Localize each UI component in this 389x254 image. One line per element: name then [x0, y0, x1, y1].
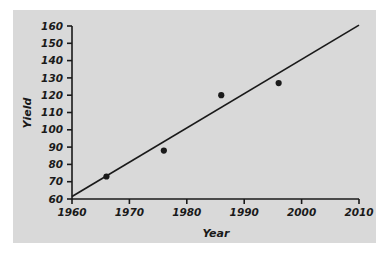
x-tick-label: 2000: [287, 206, 316, 218]
data-point-marker: [103, 173, 109, 179]
fitted-line: [72, 25, 359, 196]
axis-lines: [72, 26, 359, 199]
y-tick-label: 120: [41, 89, 63, 101]
x-tick-label: 1990: [230, 206, 259, 218]
x-tick-label: 1980: [172, 206, 201, 218]
y-tick-label: 160: [41, 20, 63, 32]
y-tick-label: 70: [48, 175, 63, 187]
data-point-marker: [276, 80, 282, 86]
y-tick-label: 90: [48, 141, 63, 153]
y-axis-title: Yield: [21, 97, 34, 128]
y-tick-label: 140: [41, 54, 63, 66]
data-point-marker: [218, 92, 224, 98]
scatter-plot: 60708090100110120130140150160 1960197019…: [0, 0, 389, 254]
chart-figure: 60708090100110120130140150160 1960197019…: [0, 0, 389, 254]
x-axis-title: Year: [203, 227, 230, 240]
trend-line: [72, 25, 359, 196]
y-tick-label: 110: [41, 106, 63, 118]
y-tick-label: 100: [41, 123, 63, 135]
y-tick-label: 60: [48, 193, 63, 205]
data-points: [103, 80, 281, 180]
y-tick-label: 80: [48, 158, 63, 170]
x-axis-ticks: 196019701980199020002010: [57, 199, 373, 218]
y-tick-label: 130: [41, 72, 63, 84]
x-tick-label: 1960: [57, 206, 86, 218]
y-tick-label: 150: [41, 37, 63, 49]
x-tick-label: 2010: [344, 206, 373, 218]
y-axis-ticks: 60708090100110120130140150160: [41, 20, 72, 205]
data-point-marker: [161, 147, 167, 153]
x-tick-label: 1970: [115, 206, 144, 218]
